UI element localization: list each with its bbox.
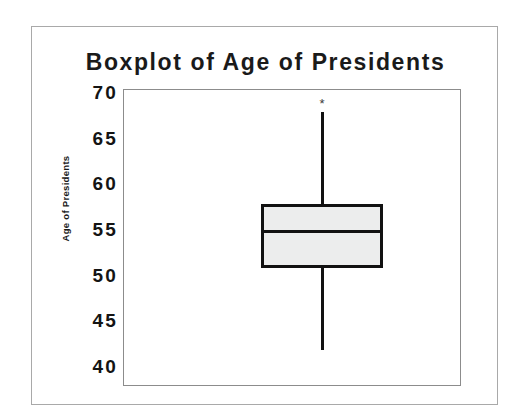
lower-whisker (321, 268, 324, 350)
y-axis-tick-label: 45 (66, 310, 118, 332)
y-axis-tick-label: 40 (66, 356, 118, 378)
interquartile-box (261, 204, 383, 268)
median-line (261, 230, 383, 233)
y-axis-tick-label: 50 (66, 265, 118, 287)
boxplot-series: * (124, 90, 462, 387)
chart-figure: Boxplot of Age of Presidents Age of Pres… (31, 26, 498, 405)
y-axis-tick-label: 70 (66, 82, 118, 104)
upper-whisker (321, 112, 324, 203)
y-axis-tick-label: 55 (66, 219, 118, 241)
y-axis-tick-label: 65 (66, 128, 118, 150)
outlier-marker: * (319, 97, 324, 110)
y-axis-tick-labels: 70656055504540 (54, 27, 118, 406)
plot-area: * (123, 89, 461, 386)
y-axis-tick-label: 60 (66, 173, 118, 195)
